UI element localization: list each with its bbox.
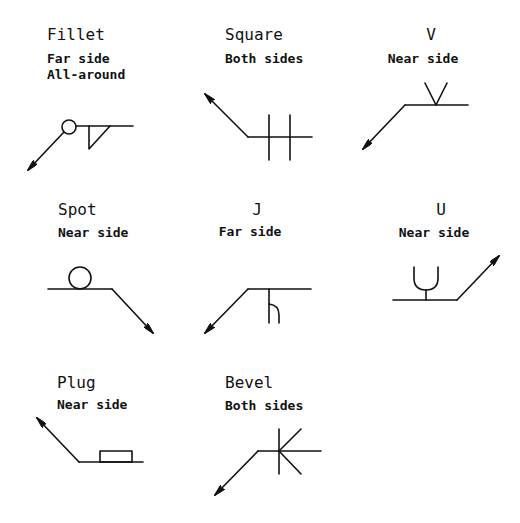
square-symbol: Square Both sides	[205, 25, 312, 160]
square-weld-icon	[205, 94, 312, 160]
symbol-title: Square	[225, 25, 283, 44]
fillet-symbol: Fillet Far side All-around	[28, 25, 133, 170]
spot-weld-icon	[48, 267, 153, 333]
u-groove-weld-icon	[393, 256, 499, 300]
spot-symbol: Spot Near side	[48, 200, 153, 333]
symbol-subtitle: Far side	[47, 51, 110, 66]
j-groove-weld-icon	[205, 289, 311, 333]
symbol-subtitle: Near side	[399, 225, 470, 240]
symbol-subtitle: Both sides	[225, 398, 303, 413]
symbol-title: Bevel	[225, 373, 273, 392]
weld-symbols-diagram: Fillet Far side All-around Square Both s…	[0, 0, 520, 523]
symbol-title: Fillet	[47, 25, 105, 44]
symbol-title: Plug	[57, 373, 96, 392]
symbol-subtitle: Near side	[58, 225, 129, 240]
symbol-title: V	[426, 25, 436, 44]
plug-symbol: Plug Near side	[37, 373, 143, 462]
symbol-subtitle: All-around	[47, 67, 125, 82]
v-symbol: V Near side	[363, 25, 468, 149]
bevel-symbol: Bevel Both sides	[215, 373, 321, 495]
plug-weld-icon	[37, 418, 143, 462]
j-symbol: J Far side	[205, 200, 311, 333]
v-groove-weld-icon	[363, 83, 468, 149]
symbol-subtitle: Both sides	[225, 51, 303, 66]
symbol-subtitle: Far side	[219, 224, 282, 239]
fillet-weld-icon	[28, 120, 133, 170]
symbol-subtitle: Near side	[57, 397, 128, 412]
symbol-title: J	[252, 200, 262, 219]
symbol-subtitle: Near side	[388, 51, 459, 66]
bevel-weld-icon	[215, 429, 321, 495]
u-symbol: U Near side	[393, 200, 499, 300]
symbol-title: U	[436, 200, 446, 219]
symbol-title: Spot	[58, 200, 97, 219]
